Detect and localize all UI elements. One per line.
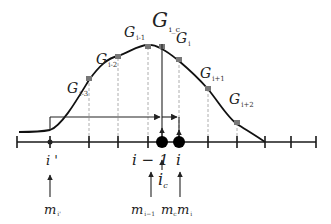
- svg-text:Gi-2: Gi-2: [96, 51, 117, 69]
- svg-text:Gi: Gi: [176, 30, 191, 48]
- svg-text:mi': mi': [44, 202, 61, 217]
- svg-text:mi: mi: [177, 202, 192, 217]
- curve-labels: Gi-3 Gi-2 Gi-1 Gi_c Gi Gi+1 Gi+2: [67, 8, 254, 109]
- svg-text:Gi-3: Gi-3: [67, 80, 88, 98]
- svg-text:i ': i ': [46, 153, 58, 168]
- axis-labels: i ' i − 1 i ic: [46, 151, 181, 190]
- svg-text:mi−1: mi−1: [131, 202, 155, 217]
- svg-text:mc: mc: [161, 202, 177, 217]
- svg-text:ic: ic: [158, 170, 168, 190]
- svg-text:i − 1: i − 1: [132, 151, 168, 169]
- sampling-diagram: Gi-3 Gi-2 Gi-1 Gi_c Gi Gi+1 Gi+2 i ' i −…: [0, 0, 331, 224]
- svg-text:Gi+1: Gi+1: [200, 65, 225, 83]
- ic-dot: [156, 136, 168, 148]
- svg-text:i: i: [176, 151, 181, 169]
- m-labels: mi' mi−1 mc mi: [44, 202, 192, 217]
- curve-sample-markers: [86, 44, 240, 125]
- x-axis: [17, 136, 316, 148]
- svg-text:Gi-1: Gi-1: [124, 24, 145, 42]
- svg-text:Gi+2: Gi+2: [229, 91, 254, 109]
- i-dot: [173, 136, 185, 148]
